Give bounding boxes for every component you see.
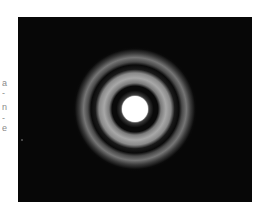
margin-text-fragment: n (2, 103, 12, 112)
central-disk (122, 96, 148, 122)
dust-speck (21, 139, 23, 141)
margin-text-fragment: a (2, 79, 12, 88)
margin-text-fragment: - (2, 89, 12, 98)
margin-text-fragment: e (2, 124, 12, 133)
margin-text-fragment: - (2, 114, 12, 123)
diffraction-photo (18, 17, 252, 202)
airy-pattern (18, 17, 252, 202)
